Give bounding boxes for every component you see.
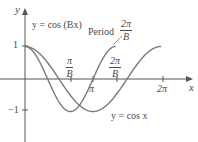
fraction-numerator: 2π xyxy=(109,56,121,68)
period-label: Period xyxy=(88,27,114,37)
label-cos-bx-text: y = cos (Bx) xyxy=(32,19,82,30)
label-cos-bx: y = cos (Bx) xyxy=(32,20,82,30)
fraction-denominator: B xyxy=(66,68,72,79)
y-tick-label-neg1: −1 xyxy=(8,105,19,115)
fraction-denominator: B xyxy=(123,31,129,42)
fraction-denominator: B xyxy=(112,68,118,79)
y-tick-label-1: 1 xyxy=(13,40,18,50)
period-fraction: 2π B xyxy=(120,19,132,42)
graph-canvas xyxy=(0,0,198,142)
x-tick-label-pi: π xyxy=(89,84,94,94)
fraction-numerator: π xyxy=(66,56,73,68)
label-cos-x-text: y = cos x xyxy=(111,110,147,121)
label-cos-x: y = cos x xyxy=(111,111,147,121)
y-axis-label: y xyxy=(15,4,20,15)
y-axis-arrow-icon xyxy=(22,8,28,15)
x-tick-label-pi-over-b: π B xyxy=(66,56,73,79)
x-tick-label-2pi: 2π xyxy=(157,84,167,94)
x-axis-label: x xyxy=(189,82,194,93)
fraction-numerator: 2π xyxy=(120,19,132,31)
x-tick-label-2pi-over-b: 2π B xyxy=(109,56,121,79)
